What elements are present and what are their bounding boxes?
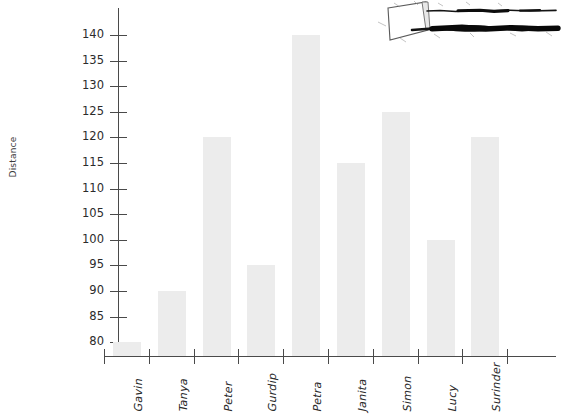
y-tick-label-110: 110 xyxy=(62,183,104,195)
y-tick-label-90: 90 xyxy=(62,285,104,297)
ink-smudge-artifact xyxy=(370,0,562,46)
bar-petra xyxy=(292,35,320,356)
y-tick-label-130: 130 xyxy=(62,80,104,92)
x-tick-1 xyxy=(149,349,150,364)
y-tick-135 xyxy=(110,61,127,62)
x-label-surinder: Surinder xyxy=(490,361,503,413)
y-tick-label-80: 80 xyxy=(62,336,104,348)
y-axis-title: Distance xyxy=(8,122,18,192)
bar-chart: Distance 8085909510010511011512012513013… xyxy=(0,0,562,415)
x-tick-7 xyxy=(418,349,419,364)
y-tick-label-85: 85 xyxy=(62,311,104,323)
bar-simon xyxy=(382,112,410,356)
y-tick-label-115: 115 xyxy=(62,157,104,169)
x-tick-8 xyxy=(462,349,463,364)
x-label-janita: Janita xyxy=(356,377,369,413)
y-tick-125 xyxy=(110,112,127,113)
y-tick-label-135: 135 xyxy=(62,55,104,67)
x-label-gavin: Gavin xyxy=(132,377,145,413)
bar-gavin xyxy=(113,342,141,356)
bar-peter xyxy=(203,137,231,356)
bar-janita xyxy=(337,163,365,356)
bar-surinder xyxy=(471,137,499,356)
y-tick-label-125: 125 xyxy=(62,106,104,118)
y-tick-label-120: 120 xyxy=(62,131,104,143)
y-tick-120 xyxy=(110,137,127,138)
x-tick-2 xyxy=(194,349,195,364)
y-tick-105 xyxy=(110,214,127,215)
x-label-gurdip: Gurdip xyxy=(266,371,279,412)
y-tick-label-95: 95 xyxy=(62,259,104,271)
x-tick-0 xyxy=(104,349,105,364)
x-label-peter: Peter xyxy=(222,380,235,413)
x-label-tanya: Tanya xyxy=(177,377,190,413)
y-tick-100 xyxy=(110,240,127,241)
x-axis-line xyxy=(104,356,556,357)
y-tick-90 xyxy=(110,291,127,292)
y-tick-label-100: 100 xyxy=(62,234,104,246)
x-tick-4 xyxy=(283,349,284,364)
x-tick-5 xyxy=(328,349,329,364)
y-tick-label-140: 140 xyxy=(62,29,104,41)
x-label-simon: Simon xyxy=(401,374,414,413)
y-tick-label-105: 105 xyxy=(62,208,104,220)
y-tick-140 xyxy=(110,35,127,36)
y-tick-85 xyxy=(110,317,127,318)
bar-gurdip xyxy=(247,265,275,356)
bar-lucy xyxy=(427,240,455,356)
x-tick-3 xyxy=(238,349,239,364)
x-label-lucy: Lucy xyxy=(446,383,459,412)
x-tick-6 xyxy=(373,349,374,364)
x-tick-9 xyxy=(507,349,508,364)
y-tick-130 xyxy=(110,86,127,87)
bar-tanya xyxy=(158,291,186,356)
x-label-petra: Petra xyxy=(311,380,324,413)
y-tick-110 xyxy=(110,189,127,190)
y-tick-95 xyxy=(110,265,127,266)
y-tick-115 xyxy=(110,163,127,164)
